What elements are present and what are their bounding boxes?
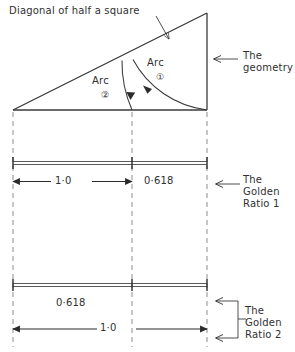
golden-ratio-2-caption-line-1: The bbox=[245, 305, 282, 317]
golden-ratio-1-caption-line-1: The bbox=[243, 174, 280, 186]
arc-1-number-badge: ① bbox=[156, 72, 164, 83]
arc-2-number-badge: ② bbox=[101, 90, 109, 101]
diagonal-of-half-a-square-label: Diagonal of half a square bbox=[9, 5, 140, 17]
golden-ratio-1-caption-line-2: Golden bbox=[243, 186, 280, 198]
dimension-label-band1-right: 0·618 bbox=[144, 175, 174, 187]
golden-ratio-2-caption-line-3: Ratio 2 bbox=[245, 329, 282, 341]
the-geometry-caption-line-1: The bbox=[243, 50, 293, 62]
golden-ratio-2-caption: The Golden Ratio 2 bbox=[245, 305, 282, 340]
arc-2-curve bbox=[122, 61, 132, 111]
golden-ratio-2-caption-line-2: Golden bbox=[245, 317, 282, 329]
golden-ratio-1-band bbox=[13, 157, 240, 184]
the-geometry-caption: The geometry bbox=[243, 50, 293, 74]
dimension-label-band1-left: 1·0 bbox=[55, 175, 72, 187]
arc-1-arrowhead bbox=[143, 86, 152, 94]
triangle-hypotenuse bbox=[13, 13, 207, 110]
arc-1-path-group bbox=[133, 60, 207, 111]
arc-1-label: Arc bbox=[147, 57, 164, 69]
arc-2-label: Arc bbox=[92, 75, 109, 87]
arc-1-curve bbox=[133, 60, 207, 111]
dimension-label-band2-upper: 0·618 bbox=[56, 297, 86, 309]
the-geometry-caption-line-2: geometry bbox=[243, 62, 293, 74]
projection-dashed-lines bbox=[13, 112, 207, 347]
golden-ratio-1-caption: The Golden Ratio 1 bbox=[243, 174, 280, 209]
golden-ratio-2-band bbox=[13, 279, 246, 338]
arc-2-path-group bbox=[122, 61, 135, 111]
golden-ratio-1-caption-line-3: Ratio 1 bbox=[243, 198, 280, 210]
triangle-geometry bbox=[13, 13, 207, 110]
golden-ratio-diagram: Diagonal of half a square Arc ① Arc ② Th… bbox=[0, 0, 295, 352]
dimension-label-band2-lower: 1·0 bbox=[100, 322, 117, 334]
